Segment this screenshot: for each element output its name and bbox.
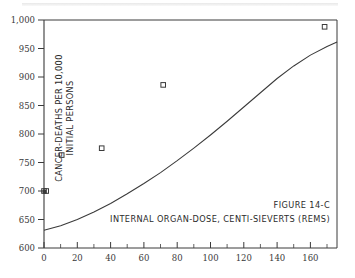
x-tick-label: 20 <box>72 253 83 263</box>
y-tick-label: 600 <box>19 243 35 253</box>
x-tick-label: 160 <box>302 253 318 263</box>
x-tick-label: 120 <box>236 253 252 263</box>
figure-14-c: 1,000 950 900 850 800 750 700 650 600 <box>0 0 355 278</box>
x-tick-label: 80 <box>172 253 183 263</box>
y-tick-label: 850 <box>19 101 35 111</box>
data-point-marker <box>161 83 166 88</box>
y-tick-label: 800 <box>19 129 35 139</box>
data-point-marker <box>322 25 327 30</box>
y-tick-label: 950 <box>19 44 35 54</box>
data-point-marker <box>99 146 104 151</box>
x-axis-title: INTERNAL ORGAN-DOSE, CENTI-SIEVERTS (REM… <box>110 214 330 224</box>
data-point-markers <box>42 25 327 194</box>
x-tick-label: 100 <box>202 253 218 263</box>
x-tick-label: 40 <box>105 253 116 263</box>
y-axis-title-line2: INITIAL PERSONS <box>65 80 75 155</box>
x-axis-ticks <box>44 242 310 248</box>
origin-cluster-overlap <box>43 190 47 193</box>
y-tick-label: 1,000 <box>11 15 35 25</box>
x-axis-tick-labels: 0 20 40 60 80 100 120 140 160 <box>41 253 318 263</box>
x-tick-label: 0 <box>41 253 46 263</box>
y-tick-label: 700 <box>19 186 35 196</box>
x-tick-label: 60 <box>138 253 149 263</box>
x-tick-label: 140 <box>269 253 285 263</box>
chart-canvas: 1,000 950 900 850 800 750 700 650 600 <box>0 0 355 278</box>
x-axis-minor-ticks <box>61 244 327 248</box>
scan-artifact-line <box>22 3 338 6</box>
figure-caption-label: FIGURE 14-C <box>274 200 330 210</box>
y-axis-title: CANCER-DEATHS PER 10,000 INITIAL PERSONS <box>54 54 75 182</box>
y-axis-ticks <box>38 20 44 248</box>
y-tick-label: 650 <box>19 215 35 225</box>
y-axis-tick-labels: 1,000 950 900 850 800 750 700 650 600 <box>11 15 35 253</box>
y-tick-label: 750 <box>19 158 35 168</box>
y-tick-label: 900 <box>19 72 35 82</box>
y-axis-title-line1: CANCER-DEATHS PER 10,000 <box>54 54 64 182</box>
